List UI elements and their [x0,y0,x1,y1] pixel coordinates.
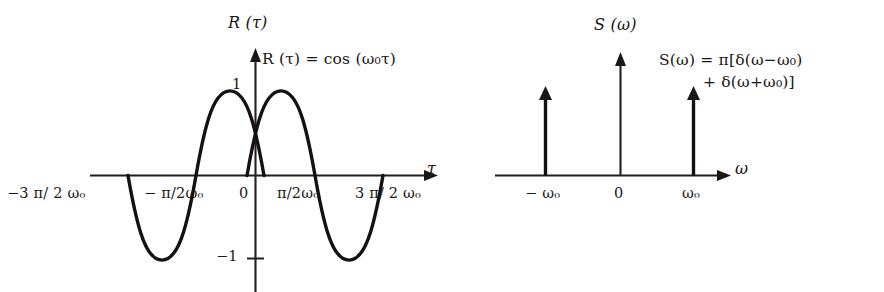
x-axis-arrowhead [717,170,731,181]
x-axis-label-omega: ω [735,160,748,179]
figure-root: R (τ) τ R (τ) = cos (ω₀τ) 1 −1 −3 π/ 2 ω… [0,0,884,292]
y-tick-label-one: 1 [232,76,241,93]
panel-power-spectrum: S (ω) ω S(ω) = π[δ(ω−ω₀) + δ(ω+ω₀)] − ω₀… [442,0,884,292]
x-tick-label-pi-over-2w0: π/2ω₀ [277,185,319,202]
y-axis-label-S: S (ω) [594,16,637,35]
y-tick-label-minus-one: −1 [216,248,238,265]
x-tick-label-zero: 0 [614,185,623,202]
x-tick-label-minus-pi-over-2w0: − π/2ω₀ [144,185,203,202]
y-axis-arrowhead [615,52,626,66]
y-axis-label-R: R (τ) [228,14,267,33]
panel-autocorrelation: R (τ) τ R (τ) = cos (ω₀τ) 1 −1 −3 π/ 2 ω… [0,0,442,292]
impulse-positive-omega0-arrowhead [687,86,700,100]
x-tick-label-omega0: ω₀ [682,185,700,202]
equation-power-spectrum-line2: + δ(ω+ω₀)] [703,73,795,91]
power-spectrum-plot [442,0,884,292]
x-tick-label-minus-3pi-over-2w0: −3 π/ 2 ω₀ [7,185,85,202]
impulse-negative-omega0-arrowhead [539,86,552,100]
x-tick-label-zero: 0 [239,185,248,202]
y-axis-arrowhead [250,48,261,62]
x-axis-label-tau: τ [427,160,436,179]
x-tick-label-minus-omega0: − ω₀ [525,185,560,202]
equation-power-spectrum-line1: S(ω) = π[δ(ω−ω₀) [659,51,803,69]
x-tick-label-3pi-over-2w0: 3 π/ 2 ω₀ [355,185,421,202]
equation-autocorrelation: R (τ) = cos (ω₀τ) [262,50,396,68]
